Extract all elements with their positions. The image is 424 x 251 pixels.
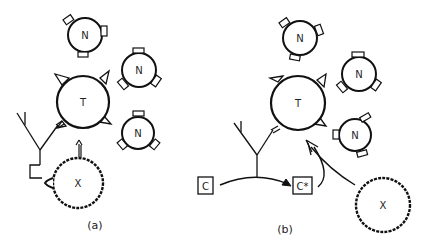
normal-cell-b3: N [333,113,371,157]
complement-inactive-box: C [198,177,213,194]
antibody-b [234,121,280,177]
normal-cell-b2: N [336,52,381,93]
target-cell-a: T [55,71,111,128]
foreign-cell-a: X [45,158,103,208]
target-cell-b: T [270,74,326,130]
normal-cell-a3: N [117,111,160,150]
foreign-cell-b: X [356,178,410,232]
panel-caption: (b) [277,223,293,236]
receptor-icon [290,54,301,61]
normal-cell-b1: N [279,18,324,61]
activation-arrow-icon [220,177,291,186]
figure-canvas: N N N T [0,0,424,251]
cell-label: T [79,97,87,108]
receptor-icon [352,52,364,57]
receptor-icon [133,48,144,53]
cell-label: X [380,200,387,211]
arrow-up-icon [76,140,82,157]
cell-label: N [351,130,358,141]
receptor-icon [360,113,371,122]
receptor-icon [78,52,88,57]
cell-label: N [135,65,142,76]
cell-label: N [134,128,141,139]
normal-cell-a2: N [117,48,161,90]
panel-caption: (a) [87,219,102,232]
cell-label: N [81,30,88,41]
cell-label: N [296,33,303,44]
receptor-icon [133,111,144,116]
panel-b: N N N T [198,18,410,236]
normal-cell-a1: N [63,15,107,57]
antigen-icon [100,71,109,84]
complement-active-box: C* [293,177,312,194]
complement-label: C [202,181,209,192]
cell-label: X [75,178,82,189]
receptor-icon [101,26,107,36]
complement-label: C* [297,181,309,192]
cell-label: N [355,69,362,80]
panel-a: N N N T [17,15,161,232]
cell-label: T [294,98,302,109]
receptor-icon [333,130,339,139]
